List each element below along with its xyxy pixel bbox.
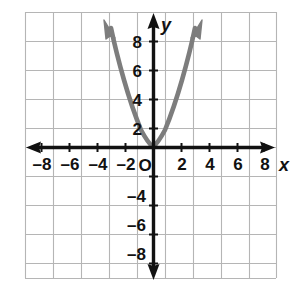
y-tick-label-neg4: –4 xyxy=(127,187,146,206)
y-axis-name-label: y xyxy=(160,15,172,35)
y-tick-label-pos8: 8 xyxy=(133,33,142,52)
x-tick-label-neg6: –6 xyxy=(61,155,80,174)
x-tick-label-pos2: 2 xyxy=(177,155,186,174)
x-tick-label-pos8: 8 xyxy=(260,155,269,174)
y-tick-label-pos2: 2 xyxy=(133,120,142,139)
x-axis-name-label: x xyxy=(278,155,290,175)
x-tick-label-neg8: –8 xyxy=(33,155,52,174)
x-tick-label-pos4: 4 xyxy=(205,155,215,174)
y-tick-label-pos6: 6 xyxy=(133,62,142,81)
x-tick-label-neg2: –2 xyxy=(117,155,136,174)
y-tick-label-neg8: –8 xyxy=(127,245,146,264)
graph-figure: –8 –6 –4 –2 O 2 4 6 8 x 8 6 4 2 –4 –6 –8… xyxy=(0,0,294,299)
coordinate-plane-graph: –8 –6 –4 –2 O 2 4 6 8 x 8 6 4 2 –4 –6 –8… xyxy=(0,0,294,299)
x-tick-label-pos6: 6 xyxy=(233,155,242,174)
y-tick-label-pos4: 4 xyxy=(133,91,143,110)
y-tick-label-neg6: –6 xyxy=(127,216,146,235)
origin-label: O xyxy=(138,156,151,175)
x-tick-label-neg4: –4 xyxy=(89,155,108,174)
